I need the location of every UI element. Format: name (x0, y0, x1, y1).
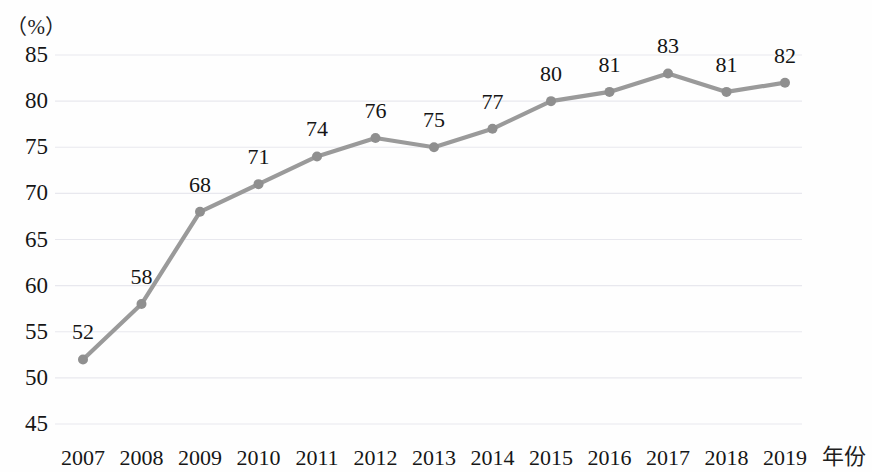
y-axis-tick-label: 55 (4, 320, 48, 343)
x-axis-tick-label: 2010 (227, 447, 291, 469)
x-axis-tick-label: 2007 (51, 447, 115, 469)
y-axis-tick-label: 60 (4, 274, 48, 297)
data-point-label: 80 (526, 63, 576, 85)
data-point[interactable] (429, 142, 439, 152)
x-axis-tick-label: 2019 (753, 447, 817, 469)
y-axis-tick-label: 65 (4, 228, 48, 251)
x-axis-tick-label: 2009 (168, 447, 232, 469)
data-point[interactable] (78, 354, 88, 364)
y-axis-tick-label: 85 (4, 43, 48, 66)
data-point[interactable] (254, 179, 264, 189)
x-axis-tick-label: 2012 (344, 447, 408, 469)
data-point[interactable] (663, 68, 673, 78)
data-point-label: 68 (175, 174, 225, 196)
data-point-label: 76 (351, 100, 401, 122)
y-axis-tick-label: 50 (4, 366, 48, 389)
data-point-label: 77 (468, 91, 518, 113)
chart-container: （%） 858075706560555045 20072008200920102… (0, 0, 872, 472)
x-axis-tick-label: 2014 (461, 447, 525, 469)
y-axis-tick-label: 45 (4, 412, 48, 435)
x-axis-title: 年份 (822, 438, 866, 470)
data-point-label: 82 (760, 45, 810, 67)
data-point-label: 58 (117, 266, 167, 288)
data-point[interactable] (546, 96, 556, 106)
data-point-label: 83 (643, 35, 693, 57)
data-point-label: 75 (409, 109, 459, 131)
plot-area: 858075706560555045 200720082009201020112… (0, 0, 872, 472)
x-axis-tick-label: 2015 (519, 447, 583, 469)
y-axis-tick-label: 75 (4, 135, 48, 158)
data-point[interactable] (371, 133, 381, 143)
data-point[interactable] (780, 78, 790, 88)
y-axis-tick-label: 80 (4, 89, 48, 112)
x-axis-tick-label: 2018 (695, 447, 759, 469)
data-point[interactable] (195, 207, 205, 217)
data-point[interactable] (137, 299, 147, 309)
y-axis-tick-label: 70 (4, 181, 48, 204)
x-axis-tick-label: 2017 (636, 447, 700, 469)
data-point[interactable] (722, 87, 732, 97)
data-point[interactable] (605, 87, 615, 97)
x-axis-tick-label: 2013 (402, 447, 466, 469)
data-point[interactable] (312, 151, 322, 161)
data-point-label: 52 (58, 321, 108, 343)
x-axis-tick-label: 2011 (285, 447, 349, 469)
data-point-label: 81 (585, 54, 635, 76)
data-point-label: 74 (292, 118, 342, 140)
data-point-label: 71 (234, 146, 284, 168)
data-point[interactable] (488, 124, 498, 134)
x-axis-tick-label: 2016 (578, 447, 642, 469)
x-axis-tick-label: 2008 (110, 447, 174, 469)
data-point-label: 81 (702, 54, 752, 76)
